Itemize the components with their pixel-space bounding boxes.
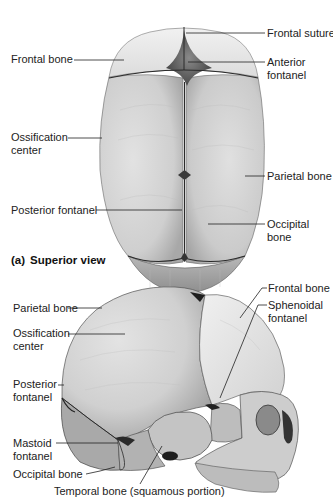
label-occipital-bone-lateral: Occipital bone	[13, 468, 83, 481]
caption-superior-view: (a)Superior view	[11, 254, 105, 266]
label-frontal-bone-superior: Frontal bone	[11, 53, 73, 66]
label-frontal-bone-lateral: Frontal bone	[268, 282, 330, 295]
label-posterior-fontanel-superior: Posterior fontanel	[11, 204, 97, 217]
label-parietal-bone-lateral: Parietal bone	[13, 302, 78, 315]
label-ossification-center-lateral-line1: Ossification	[13, 327, 70, 340]
label-posterior-fontanel-lateral-line2: fontanel	[13, 391, 52, 404]
lateral-view-skull	[61, 287, 298, 492]
superior-view-skull	[100, 27, 265, 293]
label-occipital-bone-superior-line2: bone	[267, 231, 291, 244]
label-sphenoidal-fontanel-line1: Sphenoidal	[268, 299, 323, 312]
label-ossification-center-lateral-line2: center	[13, 340, 44, 353]
fetal-skull-figure: Frontal bone Frontal suture Anterior fon…	[0, 0, 333, 500]
caption-title-superior: Superior view	[30, 254, 105, 266]
label-mastoid-fontanel-line1: Mastoid	[13, 437, 52, 450]
label-frontal-suture: Frontal suture	[267, 27, 333, 40]
label-mastoid-fontanel-line2: fontanel	[13, 450, 52, 463]
label-anterior-fontanel-line2: fontanel	[267, 69, 306, 82]
label-occipital-bone-superior-line1: Occipital	[267, 218, 309, 231]
label-anterior-fontanel-line1: Anterior	[267, 56, 306, 69]
label-temporal-bone-squamous: Temporal bone (squamous portion)	[54, 485, 225, 498]
label-ossification-center-superior-line1: Ossification	[11, 131, 68, 144]
caption-letter-a: (a)	[11, 254, 25, 266]
label-parietal-bone-superior: Parietal bone	[267, 170, 332, 183]
label-sphenoidal-fontanel-line2: fontanel	[268, 312, 307, 325]
label-posterior-fontanel-lateral-line1: Posterior	[13, 378, 57, 391]
label-ossification-center-superior-line2: center	[11, 144, 42, 157]
